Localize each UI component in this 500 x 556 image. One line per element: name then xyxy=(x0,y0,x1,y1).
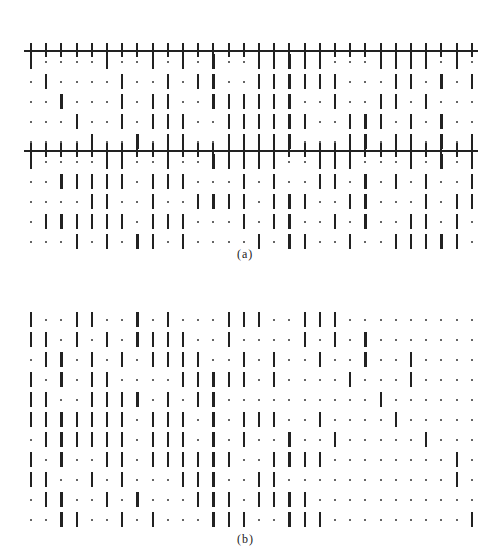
bar-mark xyxy=(471,174,473,189)
pattern-cell xyxy=(404,72,419,92)
boundary-tick xyxy=(30,43,32,57)
pattern-cell xyxy=(450,172,465,192)
dot-mark xyxy=(30,359,32,361)
pattern-cell xyxy=(54,370,69,390)
pattern-cell xyxy=(252,172,267,192)
pattern-cell xyxy=(465,192,480,212)
pattern-cell xyxy=(252,192,267,212)
pattern-cell xyxy=(358,350,373,370)
pattern-cell xyxy=(24,470,39,490)
dot-mark xyxy=(425,499,427,501)
pattern-cell xyxy=(252,350,267,370)
dot-mark xyxy=(471,221,473,223)
pattern-cell xyxy=(328,232,343,252)
pattern-cell xyxy=(282,470,297,490)
pattern-cell xyxy=(206,390,221,410)
pattern-cell xyxy=(24,370,39,390)
pattern-cell xyxy=(419,92,434,112)
pattern-cell xyxy=(39,430,54,450)
dot-mark xyxy=(167,519,169,521)
dot-mark xyxy=(30,241,32,243)
dot-mark xyxy=(30,121,32,123)
pattern-cell xyxy=(54,490,69,510)
dot-mark xyxy=(60,241,62,243)
bar-mark xyxy=(440,114,442,129)
pattern-cell xyxy=(100,72,115,92)
pattern-cell xyxy=(100,112,115,132)
pattern-cell xyxy=(282,232,297,252)
boundary-tick xyxy=(182,43,184,57)
bar-mark xyxy=(121,352,123,367)
pattern-cell xyxy=(176,212,191,232)
boundary-tick xyxy=(136,143,138,157)
dot-mark xyxy=(136,181,138,183)
pattern-cell xyxy=(267,430,282,450)
pattern-cell xyxy=(85,330,100,350)
pattern-cell xyxy=(39,510,54,530)
pattern-cell xyxy=(450,370,465,390)
pattern-cell xyxy=(24,490,39,510)
pattern-cell xyxy=(176,430,191,450)
dot-mark xyxy=(288,379,290,381)
dot-mark xyxy=(395,221,397,223)
bar-mark xyxy=(395,74,397,89)
dot-mark xyxy=(440,339,442,341)
pattern-cell xyxy=(450,350,465,370)
dot-mark xyxy=(212,221,214,223)
dot-mark xyxy=(304,181,306,183)
boundary-tick xyxy=(136,43,138,57)
pattern-cell xyxy=(54,112,69,132)
boundary-tick xyxy=(76,43,78,57)
bar-mark xyxy=(288,74,290,89)
dot-mark xyxy=(91,499,93,501)
pattern-cell xyxy=(130,450,145,470)
pattern-cell xyxy=(191,490,206,510)
dot-mark xyxy=(440,499,442,501)
bar-mark xyxy=(273,94,275,109)
dot-mark xyxy=(228,419,230,421)
pattern-cell xyxy=(389,350,404,370)
pattern-cell xyxy=(313,370,328,390)
boundary-tick xyxy=(45,143,47,157)
dot-mark xyxy=(273,319,275,321)
pattern-cell xyxy=(191,92,206,112)
dot-mark xyxy=(380,479,382,481)
bar-mark xyxy=(380,114,382,129)
dot-mark xyxy=(258,181,260,183)
pattern-cell xyxy=(282,172,297,192)
boundary-tick xyxy=(334,143,336,157)
boundary-tick xyxy=(91,143,93,157)
pattern-cell xyxy=(389,92,404,112)
dot-mark xyxy=(136,479,138,481)
pattern-cell xyxy=(54,72,69,92)
dot-mark xyxy=(334,499,336,501)
dot-mark xyxy=(212,241,214,243)
pattern-cell xyxy=(130,470,145,490)
bar-mark xyxy=(273,114,275,129)
dot-mark xyxy=(395,121,397,123)
bar-mark xyxy=(136,312,138,327)
pattern-cell xyxy=(206,450,221,470)
pattern-cell xyxy=(206,310,221,330)
pattern-cell xyxy=(313,490,328,510)
pattern-cell xyxy=(434,510,449,530)
pattern-cell xyxy=(343,430,358,450)
dot-mark xyxy=(76,161,78,163)
bar-mark xyxy=(30,372,32,387)
dot-mark xyxy=(45,161,47,163)
bar-mark xyxy=(273,74,275,89)
dot-mark xyxy=(60,339,62,341)
pattern-cell xyxy=(328,310,343,330)
pattern-cell xyxy=(39,350,54,370)
dot-mark xyxy=(136,419,138,421)
pattern-cell xyxy=(146,370,161,390)
pattern-cell xyxy=(358,212,373,232)
pattern-cell xyxy=(130,350,145,370)
pattern-cell xyxy=(267,212,282,232)
pattern-cell xyxy=(358,112,373,132)
pattern-cell xyxy=(282,490,297,510)
bar-mark xyxy=(228,94,230,109)
pattern-cell xyxy=(328,450,343,470)
pattern-cell xyxy=(343,192,358,212)
bar-mark xyxy=(456,472,458,487)
